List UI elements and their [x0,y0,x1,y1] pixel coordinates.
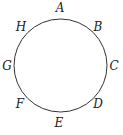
point-label-f: F [15,97,25,111]
point-label-e: E [54,116,64,130]
point-label-c: C [109,59,118,73]
circle-diagram: A B C D E F G H [0,0,123,135]
point-label-d: D [92,97,103,111]
point-label-a: A [55,1,65,15]
point-label-h: H [15,20,27,34]
point-label-b: B [93,20,103,34]
point-label-g: G [2,59,12,73]
